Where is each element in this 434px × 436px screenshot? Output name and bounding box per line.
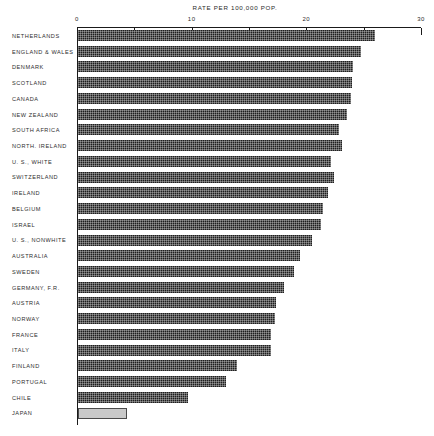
category-label: NORWAY (12, 316, 74, 322)
category-label: NEW ZEALAND (12, 112, 74, 118)
bar (78, 46, 361, 57)
bar (78, 124, 339, 135)
bar-row: CHILE (77, 390, 421, 406)
bar-row: ITALY (77, 343, 421, 359)
bar (78, 203, 323, 214)
bar-row: IRELAND (77, 185, 421, 201)
category-label: ISRAEL (12, 222, 74, 228)
bar (78, 187, 328, 198)
bar (78, 329, 271, 340)
bar-row: GERMANY, F.R. (77, 280, 421, 296)
bar-row: NEW ZEALAND (77, 107, 421, 123)
category-label: GERMANY, F.R. (12, 285, 74, 291)
category-label: AUSTRALIA (12, 253, 74, 259)
bar (78, 360, 237, 371)
bar (78, 266, 294, 277)
bar (78, 297, 276, 308)
bar-row: AUSTRIA (77, 295, 421, 311)
x-tick-label-0: 0 (75, 16, 79, 22)
bar (78, 313, 275, 324)
bar-row: SWITZERLAND (77, 170, 421, 186)
bar (78, 282, 284, 293)
bar (78, 30, 375, 41)
bar-row: FINLAND (77, 358, 421, 374)
bar-row: SOUTH AFRICA (77, 122, 421, 138)
bar (78, 77, 352, 88)
bar (78, 140, 342, 151)
category-label: FRANCE (12, 332, 74, 338)
bar (78, 156, 331, 167)
category-label: CANADA (12, 96, 74, 102)
bar-row: NETHERLANDS (77, 28, 421, 44)
category-label: NORTH. IRELAND (12, 143, 74, 149)
category-label: IRELAND (12, 190, 74, 196)
category-label: AUSTRIA (12, 300, 74, 306)
category-label: SWEDEN (12, 269, 74, 275)
x-tick-label-20: 20 (302, 16, 310, 22)
category-label: ITALY (12, 347, 74, 353)
category-label: BELGIUM (12, 206, 74, 212)
bar-row: SWEDEN (77, 264, 421, 280)
bar-row: NORTH. IRELAND (77, 138, 421, 154)
bar-row: JAPAN (77, 406, 421, 422)
category-label: SCOTLAND (12, 80, 74, 86)
bar-row: CANADA (77, 91, 421, 107)
bar (78, 250, 300, 261)
bar-row: U. S., WHITE (77, 154, 421, 170)
bar-row: FRANCE (77, 327, 421, 343)
category-label: JAPAN (12, 410, 74, 416)
bar-row: BELGIUM (77, 201, 421, 217)
category-label: DENMARK (12, 64, 74, 70)
category-label: SWITZERLAND (12, 174, 74, 180)
bar (78, 345, 271, 356)
bar-row: AUSTRALIA (77, 248, 421, 264)
bar-row: ENGLAND & WALES (77, 44, 421, 60)
category-label: SOUTH AFRICA (12, 127, 74, 133)
plot-area: NETHERLANDSENGLAND & WALESDENMARKSCOTLAN… (77, 27, 421, 425)
category-label: NETHERLANDS (12, 33, 74, 39)
bar-row: U. S., NONWHITE (77, 233, 421, 249)
bar-row: ISRAEL (77, 217, 421, 233)
bar (78, 235, 312, 246)
bar-row: NORWAY (77, 311, 421, 327)
chart-title: RATE PER 100,000 POP. (0, 4, 434, 11)
bar (78, 408, 127, 419)
category-label: FINLAND (12, 363, 74, 369)
bar (78, 109, 347, 120)
bar-rows: NETHERLANDSENGLAND & WALESDENMARKSCOTLAN… (77, 27, 421, 425)
bar-row: SCOTLAND (77, 75, 421, 91)
category-label: U. S., NONWHITE (12, 237, 74, 243)
x-tick-30 (421, 28, 422, 35)
category-label: U. S., WHITE (12, 159, 74, 165)
bar (78, 93, 351, 104)
category-label: CHILE (12, 395, 74, 401)
x-axis-tick-labels: 0102030 (0, 16, 434, 26)
bar (78, 172, 334, 183)
bar (78, 219, 321, 230)
category-label: ENGLAND & WALES (12, 49, 74, 55)
bar-row: DENMARK (77, 59, 421, 75)
x-tick-label-30: 30 (417, 16, 425, 22)
bar-chart: RATE PER 100,000 POP. 0102030 NETHERLAND… (0, 0, 434, 436)
bar (78, 376, 226, 387)
bar (78, 61, 353, 72)
bar (78, 392, 188, 403)
bar-row: PORTUGAL (77, 374, 421, 390)
category-label: PORTUGAL (12, 379, 74, 385)
x-tick-label-10: 10 (188, 16, 196, 22)
